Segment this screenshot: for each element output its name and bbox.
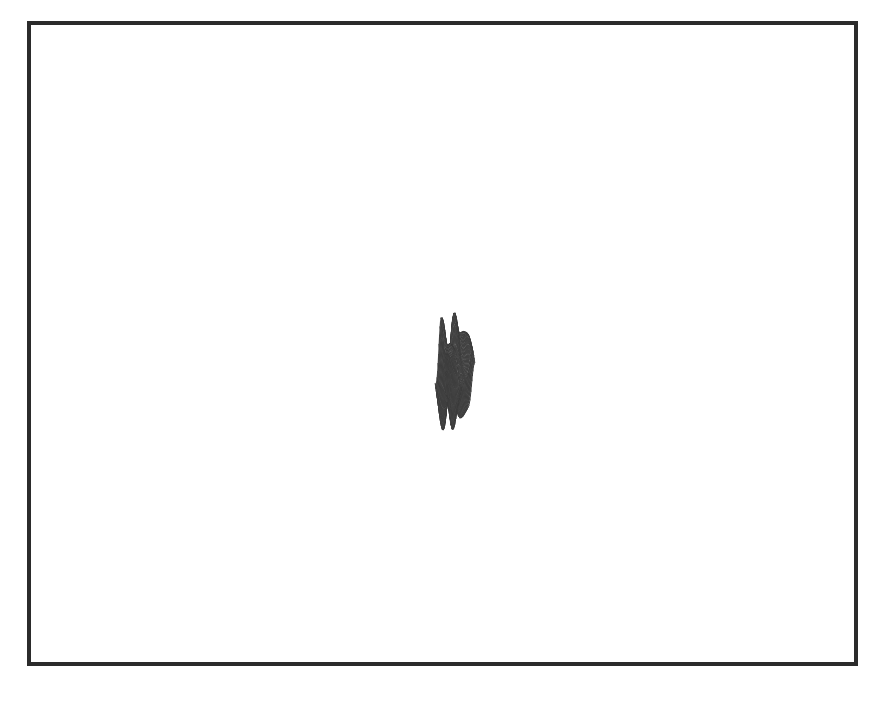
plot-frame-border	[27, 21, 858, 666]
figure-root	[0, 0, 885, 701]
figure-caption	[27, 672, 858, 696]
